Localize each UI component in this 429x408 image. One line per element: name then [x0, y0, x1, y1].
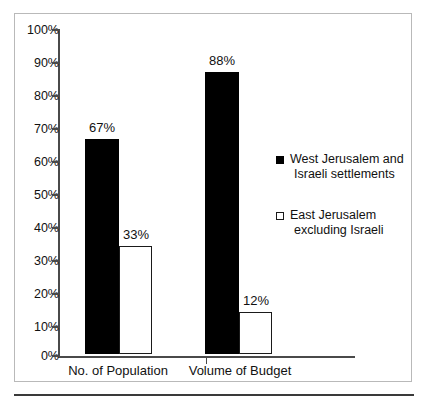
legend-label-east-jerusalem: East Jerusalem excluding Israeli [290, 208, 406, 238]
y-tick-mark-100 [52, 29, 59, 31]
y-axis-tick-100: 100% [0, 24, 59, 36]
legend-label-west-jerusalem-line1: West Jerusalem and [290, 152, 404, 166]
y-axis-tick-10: 10% [0, 321, 59, 333]
bar-budget-west-jerusalem[interactable] [205, 72, 239, 354]
legend-label-east-jerusalem-line1: East Jerusalem [290, 208, 376, 222]
y-axis-tick-60: 60% [0, 156, 59, 168]
y-tick-mark-20 [52, 293, 59, 295]
y-tick-mark-10 [52, 326, 59, 328]
legend-swatch-hollow-icon [276, 212, 284, 220]
y-axis-tick-0: 0% [0, 350, 59, 362]
y-axis-tick-80: 80% [0, 90, 59, 102]
chart-legend: West Jerusalem and Israeli settlements E… [276, 152, 406, 256]
y-axis-tick-40: 40% [0, 222, 59, 234]
y-tick-mark-40 [52, 227, 59, 229]
y-tick-mark-50 [52, 194, 59, 196]
legend-label-east-jerusalem-line2: excluding Israeli [290, 223, 406, 238]
legend-item-west-jerusalem[interactable]: West Jerusalem and Israeli settlements [276, 152, 406, 182]
y-tick-mark-70 [52, 128, 59, 130]
y-axis-tick-20: 20% [0, 288, 59, 300]
bar-population-west-jerusalem[interactable] [85, 139, 119, 354]
y-tick-mark-30 [52, 260, 59, 262]
legend-item-east-jerusalem[interactable]: East Jerusalem excluding Israeli [276, 208, 406, 238]
y-axis-tick-50: 50% [0, 189, 59, 201]
bar-chart: 100% 90% 80% 70% 60% 50% 40% 30% 20% 10%… [0, 0, 429, 408]
y-axis-tick-70: 70% [0, 123, 59, 135]
legend-swatch-filled-icon [276, 156, 284, 164]
legend-label-west-jerusalem: West Jerusalem and Israeli settlements [290, 152, 406, 182]
y-tick-mark-60 [52, 161, 59, 163]
y-tick-mark-0 [52, 355, 59, 357]
footer-rule [14, 394, 414, 396]
bar-budget-east-jerusalem[interactable] [239, 312, 272, 354]
y-tick-mark-80 [52, 95, 59, 97]
y-axis-tick-90: 90% [0, 57, 59, 69]
legend-label-west-jerusalem-line2: Israeli settlements [290, 167, 406, 182]
x-axis-category-budget: Volume of Budget [180, 363, 300, 378]
bar-value-label-12: 12% [226, 294, 286, 308]
y-tick-mark-90 [52, 62, 59, 64]
bar-population-east-jerusalem[interactable] [119, 246, 152, 354]
bar-value-label-88: 88% [192, 54, 252, 68]
y-axis-tick-30: 30% [0, 255, 59, 267]
bar-value-label-33: 33% [106, 228, 166, 242]
bar-value-label-67: 67% [72, 121, 132, 135]
x-axis-category-population: No. of Population [58, 363, 178, 378]
